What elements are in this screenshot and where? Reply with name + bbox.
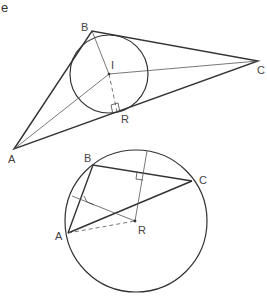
bisector-a	[14, 74, 109, 149]
figure-incircle: B I C R A	[8, 21, 265, 165]
sides-ab-bc	[68, 165, 192, 233]
radius-ir	[109, 74, 117, 112]
label-a: A	[8, 153, 16, 165]
figure-circumcircle: B C R A	[55, 150, 207, 292]
label-i: I	[111, 59, 114, 71]
label-a2: A	[55, 230, 63, 242]
label-b: B	[81, 21, 88, 33]
bisector-b	[92, 31, 109, 74]
bisector-c	[109, 61, 258, 74]
perp-bisector-bc	[135, 151, 147, 221]
part-label: e	[1, 0, 8, 15]
geometry-diagram: e B I C R A B C R A	[0, 0, 267, 299]
right-angle-mark-ab	[84, 196, 94, 205]
radius-ar	[68, 221, 135, 233]
side-ac	[68, 181, 192, 233]
label-c: C	[257, 64, 265, 76]
label-c2: C	[199, 174, 207, 186]
circumcenter-dot	[134, 220, 137, 223]
triangle-abc	[14, 31, 258, 149]
incenter-dot	[108, 73, 111, 76]
label-b2: B	[84, 152, 91, 164]
label-r2: R	[138, 224, 146, 236]
label-r: R	[121, 113, 129, 125]
